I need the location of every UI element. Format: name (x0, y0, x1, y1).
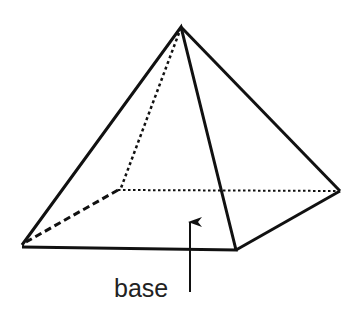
edge-right-base (236, 191, 340, 250)
hidden-edge-left (26, 190, 118, 242)
edge-apex-back-right (181, 27, 340, 191)
pyramid-diagram: base (0, 0, 357, 322)
visible-edges (22, 27, 236, 250)
hidden-edge-apex-back-left (121, 33, 179, 188)
pyramid-drawing (0, 0, 357, 322)
base-label: base (114, 276, 168, 301)
hidden-edge-back (118, 190, 340, 191)
